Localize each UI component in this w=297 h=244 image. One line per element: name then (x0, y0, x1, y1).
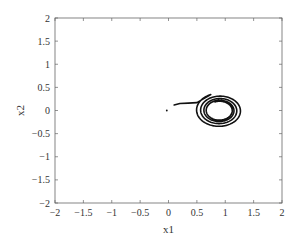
y-tick-label: 2 (45, 13, 50, 24)
y-tick-label: 0 (45, 105, 50, 116)
y-axis-label: x2 (14, 105, 26, 116)
y-tick-label: −0.5 (32, 128, 50, 139)
x-axis-label: x1 (163, 223, 174, 235)
y-tick-label: 1 (45, 59, 50, 70)
y-tick-label: −2 (39, 198, 50, 209)
x-tick-label: 1.5 (247, 207, 260, 218)
y-tick-label: 0.5 (38, 82, 51, 93)
x-tick-label: 0 (166, 207, 171, 218)
x-tick-label: 0.5 (191, 207, 204, 218)
y-tick-label: −1.5 (32, 174, 50, 185)
start-point-marker (166, 110, 168, 112)
x-tick-label: 2 (280, 207, 285, 218)
y-tick-label: −1 (39, 151, 50, 162)
x-tick-label: 1 (223, 207, 228, 218)
x-tick-labels: −2−1.5−1−0.500.511.52 (50, 207, 285, 218)
x-tick-label: −0.5 (131, 207, 149, 218)
x-tick-label: −1.5 (74, 207, 92, 218)
phase-portrait-chart: −2−1.5−1−0.500.511.52 −2−1.5−1−0.500.511… (0, 0, 297, 244)
x-tick-label: −1 (106, 207, 117, 218)
y-tick-label: 1.5 (38, 36, 51, 47)
x-tick-label: −2 (50, 207, 61, 218)
